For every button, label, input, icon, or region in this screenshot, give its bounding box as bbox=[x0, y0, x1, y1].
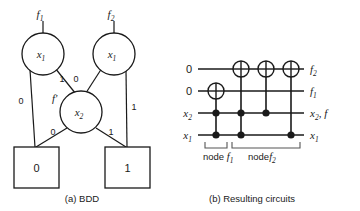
gate-g1-control-dot-wire3 bbox=[212, 131, 219, 138]
circuit-bracket-label-node-f2: nodef2 bbox=[248, 151, 276, 165]
circuit-panel: 0 0 x2 x1 f2 f1 x2, f x1 bbox=[180, 0, 360, 211]
bdd-edge-label-right-inner: 0 bbox=[73, 74, 78, 84]
circuit-caption: (b) Resulting circuits bbox=[209, 193, 295, 204]
gate-g2-control-dot-wire3 bbox=[237, 131, 244, 138]
circuit-bracket-node-f1 bbox=[205, 142, 227, 148]
bdd-label-f2: f2 bbox=[108, 8, 115, 23]
circuit-gate-g1[interactable] bbox=[208, 83, 224, 139]
circuit-gate-g2[interactable] bbox=[233, 61, 249, 139]
circuit-gate-g4[interactable] bbox=[283, 61, 299, 139]
bdd-terminal-0-label: 0 bbox=[33, 162, 39, 174]
bdd-edge-n1-low bbox=[30, 70, 35, 147]
circuit-output-label-0: f2 bbox=[310, 63, 317, 78]
bdd-edge-label-x2-low: 0 bbox=[50, 127, 55, 137]
circuit-bracket-label-node-f1: node f1 bbox=[203, 151, 233, 165]
circuit-output-label-1: f1 bbox=[310, 85, 317, 100]
gate-g2-control-dot-wire2 bbox=[237, 109, 244, 116]
bdd-edge-n2-high bbox=[126, 70, 127, 147]
bdd-edge-label-left-inner: 1 bbox=[59, 74, 64, 84]
circuit-output-label-3: x1 bbox=[309, 129, 319, 144]
circuit-gate-g3[interactable] bbox=[258, 61, 274, 117]
bdd-shared-node-annotation: f' bbox=[52, 92, 58, 104]
circuit-input-label-2: x2 bbox=[182, 107, 192, 122]
gate-g4-control-dot-wire3 bbox=[287, 131, 294, 138]
figure-container: f1 f2 x1 x1 x2 f' 0 1 bbox=[0, 0, 360, 211]
bdd-edge-label-left-outer: 0 bbox=[18, 96, 23, 106]
bdd-label-f1: f1 bbox=[37, 8, 44, 23]
bdd-edge-label-x2-high: 1 bbox=[108, 127, 113, 137]
bdd-caption: (a) BDD bbox=[65, 193, 99, 204]
circuit-input-label-0: 0 bbox=[186, 63, 192, 75]
bdd-panel: f1 f2 x1 x1 x2 f' 0 1 bbox=[0, 0, 180, 211]
circuit-output-label-2: x2, f bbox=[309, 107, 329, 122]
gate-g3-control-dot-wire2 bbox=[262, 109, 269, 116]
bdd-edge-label-right-outer: 1 bbox=[131, 102, 136, 112]
circuit-bracket-node-f2 bbox=[232, 142, 300, 148]
bdd-terminal-1-label: 1 bbox=[124, 162, 130, 174]
circuit-input-label-1: 0 bbox=[186, 85, 192, 97]
gate-g1-control-dot-wire2 bbox=[212, 109, 219, 116]
circuit-input-label-3: x1 bbox=[182, 129, 192, 144]
